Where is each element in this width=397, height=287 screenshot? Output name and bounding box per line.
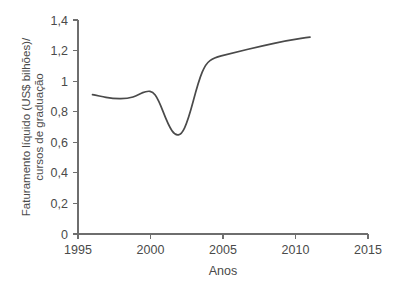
y-tick-label-0: 0: [61, 228, 68, 242]
y-tick-label-0-6: 0,6: [51, 136, 68, 150]
y-tick-label-0-2: 0,2: [51, 197, 68, 211]
y-axis-title-line1: Faturamento líquido (US$ bilhões)/: [20, 37, 32, 216]
y-tick-label-1-4: 1,4: [51, 14, 68, 28]
line-chart-figure: 1,4 1,2 1 0,8 0,6 0,4 0,2 0 1995 2000 20…: [0, 0, 397, 287]
x-tick-label-2015: 2015: [354, 243, 382, 257]
x-axis-title: Anos: [209, 264, 238, 278]
y-tick-label-1: 1: [61, 75, 68, 89]
y-tick-label-0-4: 0,4: [51, 166, 68, 180]
x-tick-label-1995: 1995: [64, 243, 92, 257]
x-tick-label-2005: 2005: [209, 243, 237, 257]
chart-container: 1,4 1,2 1 0,8 0,6 0,4 0,2 0 1995 2000 20…: [0, 0, 397, 287]
y-tick-label-1-2: 1,2: [51, 44, 68, 58]
y-tick-label-0-8: 0,8: [51, 105, 68, 119]
x-tick-label-2000: 2000: [137, 243, 165, 257]
x-tick-label-2010: 2010: [282, 243, 310, 257]
y-axis-title-line2: cursos de graduação: [33, 73, 45, 180]
